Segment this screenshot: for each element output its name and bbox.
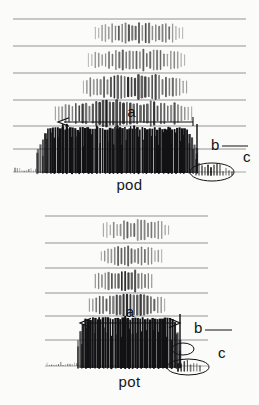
spectrogram-figure: abc pod abc pot xyxy=(0,0,259,405)
annotation-label-a: a xyxy=(126,303,135,320)
annotation-label-b: b xyxy=(194,319,202,336)
background-noise xyxy=(15,168,36,172)
voicing-bar xyxy=(78,314,180,368)
annotation-label-a: a xyxy=(127,103,136,120)
release-burst xyxy=(196,159,232,175)
spectrogram-panel-pod: abc pod xyxy=(0,0,259,202)
spectrogram-panel-pot: abc pot xyxy=(0,203,259,405)
background-noise xyxy=(47,362,77,366)
annotation-label-c: c xyxy=(243,148,251,165)
annotation-label-c: c xyxy=(218,344,226,361)
formant-striations xyxy=(55,23,191,126)
annotation-label-b: b xyxy=(211,136,219,153)
spectrogram-plot-pod: abc xyxy=(0,0,259,202)
word-label-pot: pot xyxy=(0,373,259,390)
voicing-bar xyxy=(37,124,197,173)
word-label-pod: pod xyxy=(0,176,259,193)
